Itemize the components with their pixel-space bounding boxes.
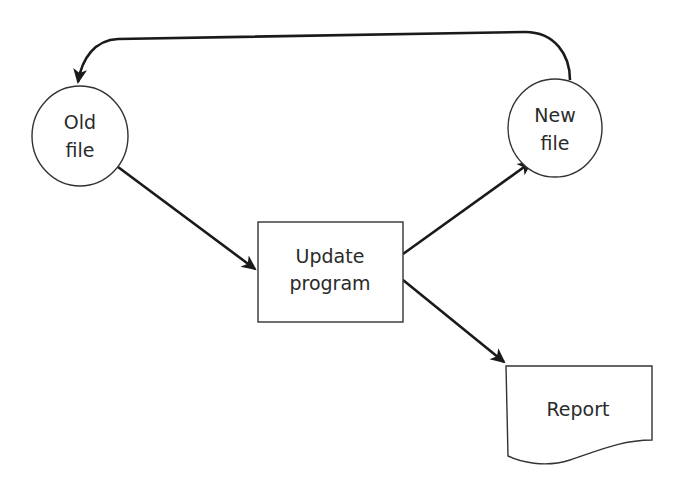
node-old-file: Old file xyxy=(32,86,128,186)
edge-update-program-to-report xyxy=(403,280,504,362)
old-file-label-line1: Old xyxy=(64,111,96,133)
update-program-label-line2: program xyxy=(289,272,370,294)
new-file-circle xyxy=(508,79,602,177)
node-update-program: Update program xyxy=(258,222,403,322)
old-file-label-line2: file xyxy=(66,139,95,161)
edge-old-file-to-update-program xyxy=(118,167,255,269)
node-report: Report xyxy=(506,366,652,464)
new-file-label-line2: file xyxy=(541,132,570,154)
edge-update-program-to-new-file xyxy=(403,162,531,254)
report-label: Report xyxy=(547,398,610,420)
edge-new-file-to-old-file xyxy=(78,32,570,82)
old-file-circle xyxy=(32,86,128,186)
data-flow-diagram: Old file New file Update program Report xyxy=(0,0,687,490)
new-file-label-line1: New xyxy=(534,104,575,126)
node-new-file: New file xyxy=(508,79,602,177)
update-program-label-line1: Update xyxy=(296,245,365,267)
